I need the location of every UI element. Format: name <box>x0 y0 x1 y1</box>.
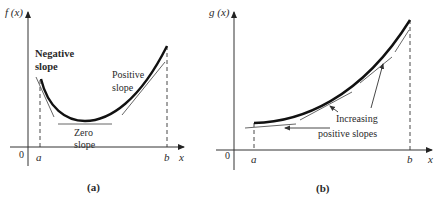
positive-slope-label-line1: Positive <box>112 69 145 80</box>
slope-diagrams: f (x) 0 a b x Negative slope Zero slope … <box>0 0 438 205</box>
panel-b: g (x) 0 a b x Increasing positive slopes… <box>209 6 433 195</box>
pointer-arrow-2b <box>330 106 338 112</box>
zero-slope-label-line1: Zero <box>74 127 93 138</box>
negative-slope-tangent <box>36 77 54 117</box>
pointer-arrow-3 <box>371 64 383 108</box>
a-label: a <box>251 153 257 165</box>
origin-label: 0 <box>225 150 230 161</box>
caption-b: (b) <box>316 182 330 195</box>
negative-slope-label-line1: Negative <box>35 48 74 59</box>
increasing-label-line1: Increasing <box>336 113 378 124</box>
origin-label: 0 <box>19 149 24 160</box>
negative-slope-label-line2: slope <box>35 61 58 72</box>
y-axis-label: f (x) <box>5 6 23 19</box>
tangent-3 <box>360 57 392 83</box>
caption-a: (a) <box>87 181 100 194</box>
b-label: b <box>164 151 170 163</box>
y-axis-label: g (x) <box>209 6 230 19</box>
a-label: a <box>36 151 42 163</box>
panel-a: f (x) 0 a b x Negative slope Zero slope … <box>5 6 184 194</box>
zero-slope-label-line2: slope <box>74 139 96 150</box>
b-label: b <box>407 153 413 165</box>
positive-slope-label-line2: slope <box>112 82 134 93</box>
x-axis-label: x <box>427 153 433 165</box>
tangent-1 <box>245 124 296 128</box>
x-axis-label: x <box>178 151 184 163</box>
increasing-label-line2: positive slopes <box>318 128 377 139</box>
